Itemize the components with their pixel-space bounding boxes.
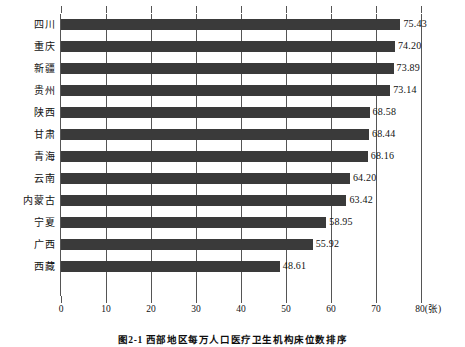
y-axis-label: 四川 — [2, 14, 56, 36]
x-tick-label: 50 — [281, 302, 291, 316]
bar-row: 73.89 — [61, 58, 421, 80]
bar-value-label: 48.61 — [283, 258, 307, 274]
y-axis-label: 重庆 — [2, 36, 56, 58]
bar-value-label: 63.42 — [349, 192, 373, 208]
bar-value-label: 55.92 — [316, 236, 340, 252]
bar — [61, 261, 280, 272]
x-tick-label: 20 — [146, 302, 156, 316]
bar-row: 55.92 — [61, 234, 421, 256]
x-tick-label: 80(张) — [415, 302, 441, 316]
y-axis-label: 西藏 — [2, 256, 56, 278]
y-axis-label: 陕西 — [2, 102, 56, 124]
y-axis-label: 内蒙古 — [2, 190, 56, 212]
bar-value-label: 74.20 — [398, 38, 422, 54]
x-tick-label: 70 — [371, 302, 381, 316]
bar — [61, 195, 346, 206]
x-tick-label: 60 — [326, 302, 336, 316]
gridline-80 — [421, 14, 422, 296]
bar-value-label: 68.16 — [371, 148, 395, 164]
bar — [61, 151, 368, 162]
bar-row: 75.43 — [61, 14, 421, 36]
x-tick-top-20 — [151, 6, 152, 13]
bar — [61, 129, 369, 140]
bar-row: 58.95 — [61, 212, 421, 234]
figure-caption: 图2-1 西部地区每万人口医疗卫生机构床位数排序 — [0, 333, 465, 347]
bar-value-label: 75.43 — [403, 16, 427, 32]
bar-row: 73.14 — [61, 80, 421, 102]
bar — [61, 85, 390, 96]
bar-value-label: 73.89 — [397, 60, 421, 76]
bar-row: 68.16 — [61, 146, 421, 168]
bar-row: 74.20 — [61, 36, 421, 58]
bar — [61, 19, 400, 30]
x-axis-tick-labels: 01020304050607080(张) — [61, 302, 461, 318]
y-axis-label: 云南 — [2, 168, 56, 190]
bar-value-label: 73.14 — [393, 82, 417, 98]
bar-value-label: 68.44 — [372, 126, 396, 142]
bar — [61, 63, 394, 74]
x-tick-label: 10 — [101, 302, 111, 316]
bar-row: 68.44 — [61, 124, 421, 146]
bar-value-label: 58.95 — [329, 214, 353, 230]
x-tick-label: 30 — [191, 302, 201, 316]
y-axis-label: 新疆 — [2, 58, 56, 80]
x-tick-top-0 — [61, 6, 62, 13]
y-axis-label: 宁夏 — [2, 212, 56, 234]
y-axis-label: 青海 — [2, 146, 56, 168]
bar — [61, 107, 370, 118]
bar-row: 48.61 — [61, 256, 421, 278]
x-tick-top-60 — [331, 6, 332, 13]
bar-row: 68.58 — [61, 102, 421, 124]
x-tick-label: 0 — [59, 302, 64, 316]
plot-area: 75.4374.2073.8973.1468.5868.4468.1664.20… — [61, 14, 421, 296]
y-axis-category-labels: 四川重庆新疆贵州陕西甘肃青海云南内蒙古宁夏广西西藏 — [0, 14, 56, 296]
x-tick-top-80 — [421, 6, 422, 13]
bar-row: 64.20 — [61, 168, 421, 190]
x-tick-top-70 — [376, 6, 377, 13]
y-axis-label: 甘肃 — [2, 124, 56, 146]
x-tick-top-50 — [286, 6, 287, 13]
x-tick-label: 40 — [236, 302, 246, 316]
bar — [61, 217, 326, 228]
y-axis-label: 贵州 — [2, 80, 56, 102]
x-tick-top-30 — [196, 6, 197, 13]
bar — [61, 239, 313, 250]
bar — [61, 41, 395, 52]
x-tick-top-10 — [106, 6, 107, 13]
figure-container: 四川重庆新疆贵州陕西甘肃青海云南内蒙古宁夏广西西藏 75.4374.2073.8… — [0, 0, 465, 347]
bar-value-label: 68.58 — [373, 104, 397, 120]
x-tick-top-40 — [241, 6, 242, 13]
y-axis-label: 广西 — [2, 234, 56, 256]
bar-row: 63.42 — [61, 190, 421, 212]
bar — [61, 173, 350, 184]
bar-value-label: 64.20 — [353, 170, 377, 186]
